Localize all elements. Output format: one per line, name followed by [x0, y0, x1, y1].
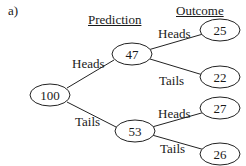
- node-out-tt: 26: [214, 148, 227, 161]
- node-out-ht: 22: [214, 71, 227, 84]
- panel-label: a): [8, 4, 18, 17]
- node-pred-tails: 53: [129, 125, 142, 138]
- node-root: 100: [40, 89, 60, 102]
- edge-label-root-tails: Tails: [75, 115, 100, 128]
- edge-label-heads-tails: Tails: [159, 74, 184, 87]
- node-out-hh: 25: [214, 24, 227, 37]
- outcome-header: Outcome: [176, 4, 224, 17]
- edge-label-tails-tails: Tails: [160, 142, 185, 155]
- edge-label-tails-heads: Heads: [158, 107, 191, 120]
- edge-label-heads-heads: Heads: [158, 27, 191, 40]
- edge-label-root-heads: Heads: [72, 57, 105, 70]
- node-out-th: 27: [214, 102, 227, 115]
- node-pred-heads: 47: [126, 48, 139, 61]
- prediction-header: Prediction: [88, 13, 141, 26]
